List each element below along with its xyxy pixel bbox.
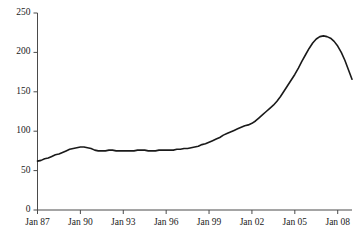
- y-axis-ticks: [34, 13, 38, 210]
- y-tick-label: 0: [0, 205, 31, 215]
- chart-plot-area: [0, 0, 360, 251]
- x-tick-label: Jan 02: [240, 218, 265, 228]
- line-chart: 050100150200250 Jan 87Jan 90Jan 93Jan 96…: [0, 0, 360, 251]
- x-tick-label: Jan 90: [68, 218, 93, 228]
- y-tick-label: 150: [0, 87, 31, 97]
- data-series-line: [38, 36, 353, 161]
- y-tick-label: 50: [0, 166, 31, 176]
- y-tick-label: 100: [0, 126, 31, 136]
- x-tick-label: Jan 87: [25, 218, 50, 228]
- y-tick-label: 250: [0, 8, 31, 18]
- x-tick-label: Jan 96: [154, 218, 179, 228]
- y-tick-label: 200: [0, 48, 31, 58]
- x-tick-label: Jan 99: [197, 218, 222, 228]
- x-tick-label: Jan 93: [111, 218, 136, 228]
- x-tick-label: Jan 05: [283, 218, 308, 228]
- x-axis-ticks: [38, 210, 338, 214]
- x-tick-label: Jan 08: [325, 218, 350, 228]
